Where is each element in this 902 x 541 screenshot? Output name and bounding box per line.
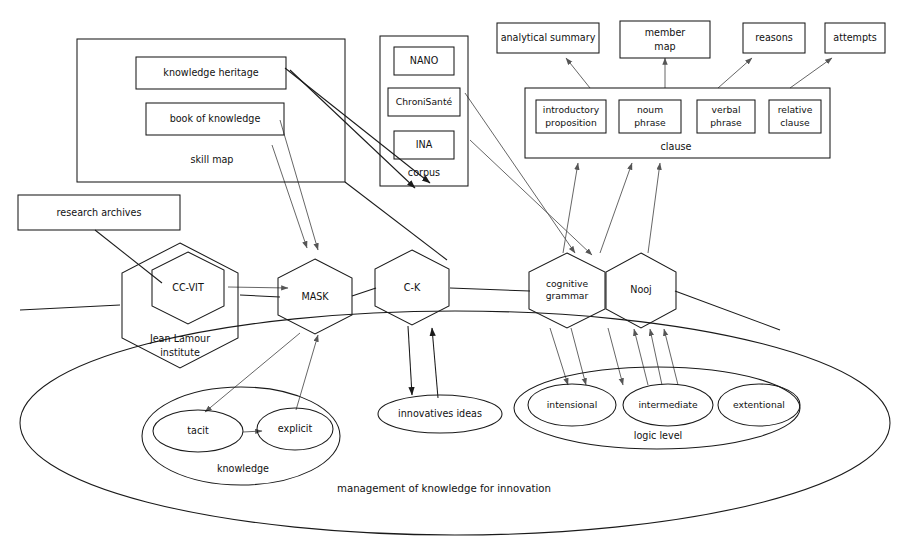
ellipse-intermediate-label: intermediate [638, 399, 697, 410]
connector-clause-to-attempts [790, 58, 832, 88]
box-member-map-label-1: member [645, 27, 686, 38]
hex-jean-lamour-institute-label-1: Jean Lamour [149, 333, 210, 344]
box-research-archives-label: research archives [57, 207, 142, 218]
box-noum-phrase-label-1: noum [637, 104, 663, 115]
hex-ck-label: C-K [404, 282, 421, 293]
box-verbal-phrase-label-2: phrase [710, 117, 742, 128]
connector-ccvit-to-mask [228, 287, 288, 288]
outer-ellipse-label: management of knowledge for innovation [337, 483, 551, 494]
connector-logic-to-nooj-a [634, 329, 648, 385]
group-clause-label: clause [661, 141, 692, 152]
box-book-of-knowledge-label: book of knowledge [170, 113, 261, 124]
connector-skillmap-to-ck [345, 182, 447, 260]
ellipse-extentional-label: extentional [733, 399, 785, 410]
hex-nooj-label: Nooj [630, 284, 652, 295]
connector-tacit-to-explicit [243, 431, 262, 432]
box-reasons-label: reasons [755, 32, 792, 43]
connector-cg-to-clause-b [600, 163, 632, 253]
box-noum-phrase-label-2: phrase [634, 117, 666, 128]
connector-ideas-to-ck [432, 328, 438, 398]
connector-ck-to-ideas [408, 326, 412, 395]
group-corpus-label: corpus [408, 167, 440, 178]
connector-corpus-to-cognitive-grammar-b [470, 140, 592, 255]
diagram-canvas: management of knowledge for innovation [0, 0, 902, 541]
box-analytical-summary-label: analytical summary [501, 32, 596, 43]
connector-cg-to-logic-b [571, 328, 586, 385]
hex-mask-label: MASK [301, 291, 329, 302]
ellipse-innovatives-ideas-label: innovatives ideas [398, 408, 482, 419]
box-chronisante-label: ChroniSanté [396, 96, 453, 107]
box-knowledge-heritage-label: knowledge heritage [163, 67, 258, 78]
link-institute-to-mask [240, 295, 280, 297]
connector-logic-to-nooj-c [664, 329, 678, 385]
connector-logic-to-nooj-b [650, 329, 662, 385]
box-member-map-label-2: map [654, 41, 675, 52]
hex-jean-lamour-institute-label-2: institute [160, 347, 200, 358]
diagram-svg: management of knowledge for innovation [0, 0, 902, 541]
hex-cognitive-grammar-label-1: cognitive [546, 278, 588, 289]
connector-explicit-to-mask [296, 335, 318, 410]
box-introductory-proposition-label-2: proposition [545, 117, 597, 128]
group-logic-level-label: logic level [634, 430, 682, 441]
connector-nooj-to-logic-a [608, 328, 623, 385]
link-ck-to-cognitive-grammar [450, 288, 530, 291]
link-nooj-to-ellipse-right [675, 291, 780, 330]
link-institute-to-ellipse-left [20, 305, 120, 310]
connector-clause-to-analytical-summary [566, 58, 590, 88]
box-introductory-proposition-label-1: introductory [543, 104, 600, 115]
box-ina-label: INA [416, 139, 433, 150]
box-nano-label: NANO [410, 55, 439, 66]
connector-nooj-to-clause [648, 163, 660, 253]
box-relative-clause-label-2: clause [780, 117, 810, 128]
hex-cognitive-grammar-label-2: grammar [546, 290, 589, 301]
connector-book-down [272, 145, 307, 248]
connector-mask-to-tacit [205, 333, 300, 412]
box-attempts-label: attempts [833, 32, 877, 43]
ellipse-explicit-label: explicit [278, 423, 313, 434]
link-mask-to-ck [352, 288, 376, 296]
hex-cc-vit-label: CC-VIT [172, 282, 204, 293]
box-relative-clause-label-1: relative [778, 104, 813, 115]
group-knowledge-label: knowledge [217, 463, 269, 474]
outer-ellipse-management [20, 311, 890, 535]
connector-clause-to-reasons [718, 58, 752, 88]
ellipse-intensional-label: intensional [547, 399, 597, 410]
group-skill-map-label: skill map [191, 154, 234, 165]
box-verbal-phrase-label-1: verbal [712, 104, 741, 115]
ellipse-tacit-label: tacit [187, 425, 209, 436]
